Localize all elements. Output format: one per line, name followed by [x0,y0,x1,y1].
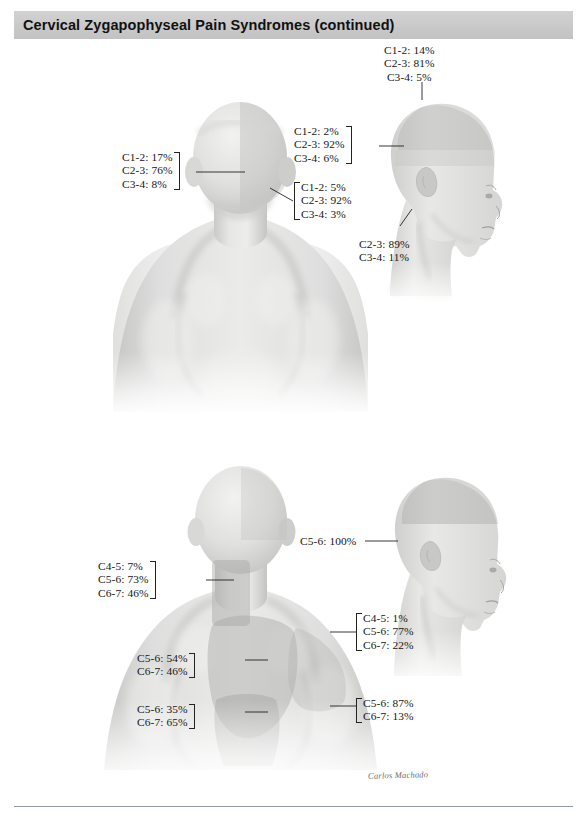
lower-lateral-head-profile [382,478,506,686]
label-lower-scapular: C5-6: 35% C6-7: 65% [137,703,195,730]
label-line: C2-3: 81% [384,57,435,70]
label-posterior-neck: C4-5: 7% C5-6: 73% C6-7: 46% [98,560,156,600]
page-canvas: Cervical Zygapophyseal Pain Syndromes (c… [0,0,587,821]
label-line: C1-2: 17% [122,151,173,164]
label-line: C5-6: 73% [98,573,149,586]
label-occipital-left: C1-2: 17% C2-3: 76% C3-4: 8% [122,151,180,191]
label-line: C5-6: 35% [137,703,188,716]
page-title: Cervical Zygapophyseal Pain Syndromes (c… [14,17,395,33]
page-title-bar: Cervical Zygapophyseal Pain Syndromes (c… [14,11,573,39]
upper-lateral-head-profile [378,104,502,308]
label-shoulder: C5-6: 87% C6-7: 13% [356,697,414,724]
label-line: C1-2: 2% [294,125,345,138]
label-line: C5-6: 87% [363,697,414,710]
label-supraspinous: C4-5: 1% C5-6: 77% C6-7: 22% [356,612,414,652]
label-line: C2-3: 89% [359,238,410,251]
label-line: C3-4: 3% [301,208,352,221]
label-line: C2-3: 76% [122,164,173,177]
label-line: C6-7: 46% [98,587,149,600]
label-line: C4-5: 7% [98,560,149,573]
label-line: C2-3: 92% [301,194,352,207]
label-suboccipital: C1-2: 5% C2-3: 92% C3-4: 3% [294,181,352,221]
label-line: C6-7: 46% [137,665,188,678]
label-line: C6-7: 65% [137,716,188,729]
anatomical-illustration [0,0,587,821]
artist-signature: Carlos Machado [368,769,428,781]
label-line: C3-4: 11% [359,251,410,264]
label-line: C1-2: 14% [384,44,435,57]
label-upper-occiput: C1-2: 2% C2-3: 92% C3-4: 6% [294,125,352,165]
label-lateral-head: C5-6: 100% [300,535,356,548]
lower-figure-artwork [92,466,506,786]
label-line: C2-3: 92% [294,138,345,151]
label-line: C6-7: 13% [363,710,414,723]
label-line: C3-4: 6% [294,152,345,165]
label-line: C6-7: 22% [363,639,414,652]
label-line: C1-2: 5% [301,181,352,194]
leader-suboccipital [270,188,293,201]
footer-divider [14,806,573,807]
label-line: C3-4: 5% [384,71,435,84]
leader-lateral-neck [400,209,412,226]
label-lateral-neck: C2-3: 89% C3-4: 11% [359,238,410,265]
label-upper-scapular: C5-6: 54% C6-7: 46% [137,652,195,679]
label-line: C4-5: 1% [363,612,414,625]
label-top-vertex: C1-2: 14% C2-3: 81% C3-4: 5% [384,44,435,84]
label-line: C5-6: 77% [363,625,414,638]
label-line: C5-6: 54% [137,652,188,665]
label-line: C5-6: 100% [300,535,356,548]
label-line: C3-4: 8% [122,178,173,191]
